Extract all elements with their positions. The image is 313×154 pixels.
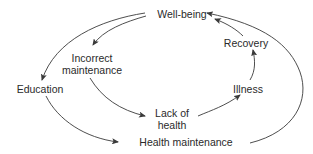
node-recovery-label: Recovery: [224, 37, 268, 49]
node-lack-of-health: Lack of health: [155, 107, 189, 131]
node-lack-line1: Lack of: [155, 107, 189, 119]
node-incorrect-maintenance: Incorrect maintenance: [62, 52, 122, 76]
node-education: Education: [17, 83, 64, 95]
node-incorrect-line1: Incorrect: [62, 52, 122, 64]
arrow-illness-to-recovery: [250, 50, 255, 80]
arrow-wellbeing-to-incorrect: [93, 16, 146, 45]
wellbeing-cycle-diagram: Well-being Recovery Incorrect maintenanc…: [0, 0, 313, 154]
arrow-education-to-healthmaint: [46, 96, 118, 142]
arrow-incorrect-to-lack: [90, 78, 145, 116]
node-health-maintenance: Health maintenance: [139, 136, 232, 148]
node-well-being: Well-being: [157, 8, 206, 20]
node-incorrect-line2: maintenance: [62, 64, 122, 76]
arrow-healthmaint-to-wellbeing: [207, 13, 303, 143]
node-well-being-label: Well-being: [157, 8, 206, 20]
node-lack-line2: health: [155, 119, 189, 131]
node-recovery: Recovery: [224, 37, 268, 49]
node-illness-label: Illness: [233, 83, 263, 95]
node-illness: Illness: [233, 83, 263, 95]
arrow-lack-to-illness: [198, 95, 240, 116]
node-health-maintenance-label: Health maintenance: [139, 136, 232, 148]
node-education-label: Education: [17, 83, 64, 95]
